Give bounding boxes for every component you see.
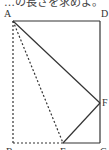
- label-F: F: [102, 97, 108, 108]
- label-A: A: [4, 8, 12, 19]
- label-E: E: [60, 146, 66, 150]
- label-D: D: [101, 8, 108, 19]
- segment-AF: [13, 21, 100, 103]
- label-C: C: [100, 146, 107, 150]
- segment-FE: [63, 103, 100, 143]
- rectangle-fold-diagram: A D F B E C: [0, 0, 109, 150]
- segment-AE-dashed: [13, 21, 63, 143]
- label-B: B: [6, 146, 13, 150]
